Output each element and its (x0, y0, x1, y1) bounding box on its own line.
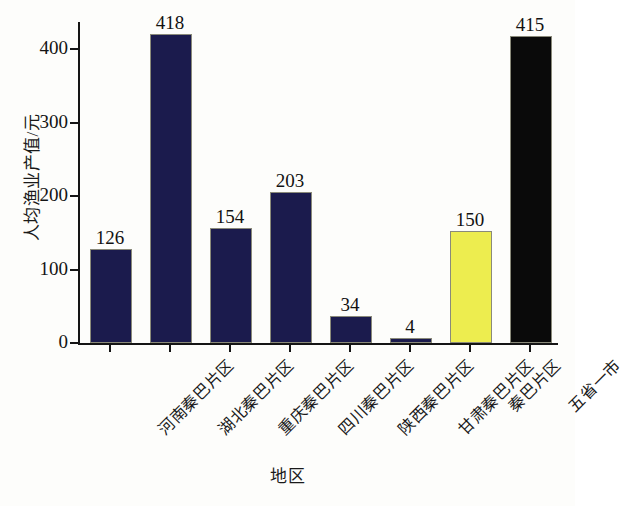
bar-value-label: 203 (276, 171, 305, 191)
bar-rect (150, 34, 192, 343)
y-axis-tick-mark (70, 269, 79, 271)
bar-value-label: 154 (216, 207, 245, 227)
bar-rect (450, 231, 492, 343)
x-axis-category-labels: 河南秦巴片区湖北秦巴片区重庆秦巴片区四川秦巴片区陕西秦巴片区甘肃秦巴片区秦巴片区… (78, 350, 558, 460)
y-axis-line (78, 22, 80, 345)
bar[interactable]: 34 (330, 318, 370, 343)
y-axis-tick-mark (70, 122, 79, 124)
x-axis-line (78, 343, 558, 345)
bar-value-label: 4 (405, 317, 415, 337)
y-axis-tick-label: 200 (40, 185, 69, 205)
bar-rect (90, 249, 132, 343)
bar-rect (390, 338, 432, 343)
bar[interactable]: 418 (150, 36, 190, 343)
bar-value-label: 415 (516, 15, 545, 35)
bar[interactable]: 150 (450, 233, 490, 343)
x-axis-category-label: 五省一市 (565, 356, 624, 415)
y-axis-tick-label: 100 (40, 259, 69, 279)
bar[interactable]: 203 (270, 194, 310, 343)
y-axis-tick-label: 400 (40, 38, 69, 58)
bar-rect (510, 36, 552, 343)
y-axis-tick-mark (70, 48, 79, 50)
bar-rect (330, 316, 372, 343)
bar-rect (270, 192, 312, 343)
bar-value-label: 34 (341, 295, 360, 315)
x-axis-title: 地区 (0, 462, 575, 487)
bar-rect (210, 228, 252, 343)
bar[interactable]: 126 (90, 251, 130, 343)
y-axis-tick-mark (70, 342, 79, 344)
bar[interactable]: 154 (210, 230, 250, 343)
bar-value-label: 150 (456, 210, 485, 230)
y-axis-tick-mark (70, 195, 79, 197)
y-axis-title: 人均渔业产值/元 (18, 78, 43, 278)
plot-area: 0100200300400 126418154203344150415 (78, 22, 558, 345)
bar-value-label: 418 (156, 13, 185, 33)
y-axis-tick-label: 300 (40, 112, 69, 132)
bar[interactable]: 4 (390, 340, 430, 343)
bar[interactable]: 415 (510, 38, 550, 343)
bar-value-label: 126 (96, 228, 125, 248)
y-axis-tick-label: 0 (59, 332, 69, 352)
